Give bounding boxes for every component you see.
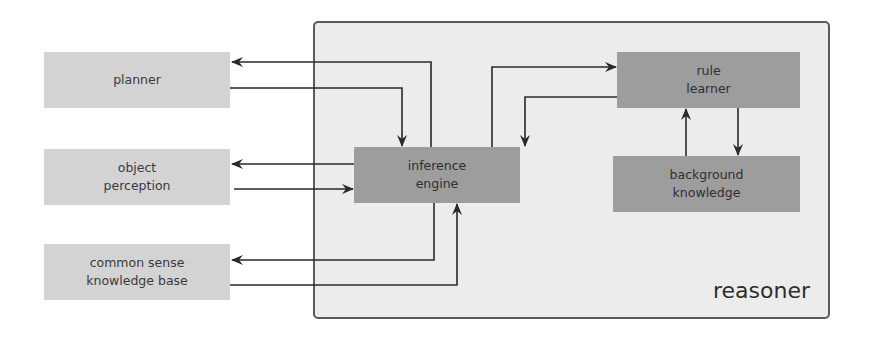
edge-inference-to-common-sense: [232, 203, 434, 260]
edge-inference-to-rule-learner: [492, 67, 616, 147]
edge-inference-to-planner: [232, 62, 431, 147]
edge-common-sense-to-inference: [230, 204, 457, 285]
edge-planner-to-inference: [230, 88, 402, 146]
edge-rule-learner-to-inference: [525, 97, 617, 146]
edges-layer: [0, 0, 876, 344]
